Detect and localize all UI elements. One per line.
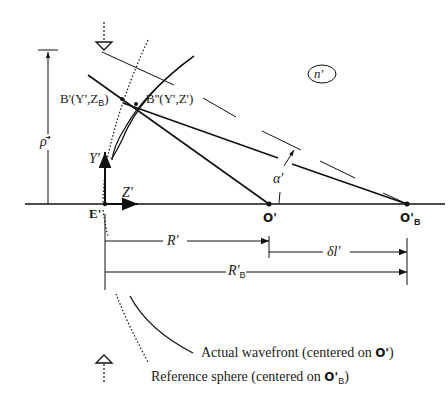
- reference-sphere-upper: [103, 40, 148, 204]
- actual-wavefront-suffix: ): [389, 345, 394, 360]
- reference-sphere-point: O': [324, 370, 338, 384]
- point-E-label: E': [89, 207, 101, 220]
- OB-sub: B: [414, 217, 421, 227]
- reference-sphere-lower-2: [116, 294, 148, 362]
- RB-text: R': [228, 263, 240, 278]
- y-axis-label: Y': [89, 152, 100, 166]
- dashed-line-segment-1: [102, 52, 174, 85]
- point-B-actual-label: B''(Y',Z'): [146, 92, 193, 105]
- reference-sphere-caption: Reference sphere (centered on O'B): [151, 370, 349, 386]
- dashed-line-segment-2: [203, 98, 236, 117]
- RB-sub: B: [240, 270, 246, 280]
- ray-to-OB-2: [292, 164, 407, 204]
- rho-text: ρ̄': [40, 134, 50, 149]
- actual-wavefront-upper-b: [112, 56, 194, 160]
- point-O: [267, 202, 272, 207]
- ray-to-OB: [123, 103, 278, 158]
- B-ref-text: B'(Y',Z: [60, 91, 98, 106]
- reference-sphere-suffix: ): [344, 369, 349, 384]
- alpha-label: α': [273, 172, 283, 186]
- point-B-ref-label: B'(Y',ZB): [60, 92, 109, 108]
- top-triangle-icon: [96, 42, 112, 50]
- point-OB: [405, 202, 410, 207]
- R-label: R': [167, 234, 179, 248]
- delta-l-label: δl': [327, 245, 340, 259]
- point-B-ref: [120, 97, 124, 101]
- bottom-triangle-icon: [96, 355, 112, 363]
- point-O-label: O': [263, 212, 277, 224]
- rho-label: ρ̄': [40, 134, 50, 150]
- z-axis-label: Z': [122, 186, 133, 200]
- B-ref-close: ): [104, 91, 108, 106]
- point-B-actual: [134, 102, 138, 106]
- OB-text: O': [400, 211, 414, 225]
- actual-wavefront-prefix: Actual wavefront (centered on: [201, 345, 375, 360]
- RB-label: R'B: [228, 264, 246, 280]
- actual-wavefront-caption: Actual wavefront (centered on O'): [201, 346, 394, 360]
- alpha-angle-arrow: [279, 192, 280, 203]
- point-OB-label: O'B: [400, 212, 420, 227]
- actual-wavefront-point: O': [375, 346, 389, 360]
- actual-wavefront-upper: [111, 56, 194, 158]
- reference-sphere-prefix: Reference sphere (centered on: [151, 369, 324, 384]
- dashed-line-segment-3: [262, 131, 301, 150]
- medium-index-label: n': [314, 67, 323, 80]
